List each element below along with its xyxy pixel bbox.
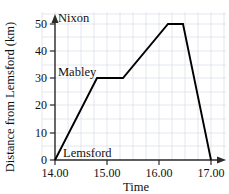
y-axis-title: Distance from Lemsford (km) [3, 22, 17, 172]
nixon-label: Nixon [58, 11, 90, 25]
y-tick-label-40: 40 [35, 44, 47, 58]
y-tick-label-50: 50 [35, 17, 47, 31]
chart-svg: 0 10 20 30 40 50 14.00 15.00 16.00 17.00… [0, 0, 229, 194]
distance-time-chart: 0 10 20 30 40 50 14.00 15.00 16.00 17.00… [0, 0, 229, 194]
x-tick-label-1700: 17.00 [198, 166, 225, 180]
x-tick-label-1600: 16.00 [146, 166, 173, 180]
y-tick-label-0: 0 [41, 153, 47, 167]
x-axis-title: Time [123, 180, 149, 194]
mabley-label: Mabley [58, 65, 97, 79]
y-tick-label-10: 10 [35, 126, 47, 140]
y-tick-label-20: 20 [35, 98, 47, 112]
x-tick-label-1500: 15.00 [94, 166, 121, 180]
x-tick-label-1400: 14.00 [42, 166, 69, 180]
lemsford-label: Lemsford [63, 146, 112, 160]
y-tick-label-30: 30 [35, 71, 47, 85]
